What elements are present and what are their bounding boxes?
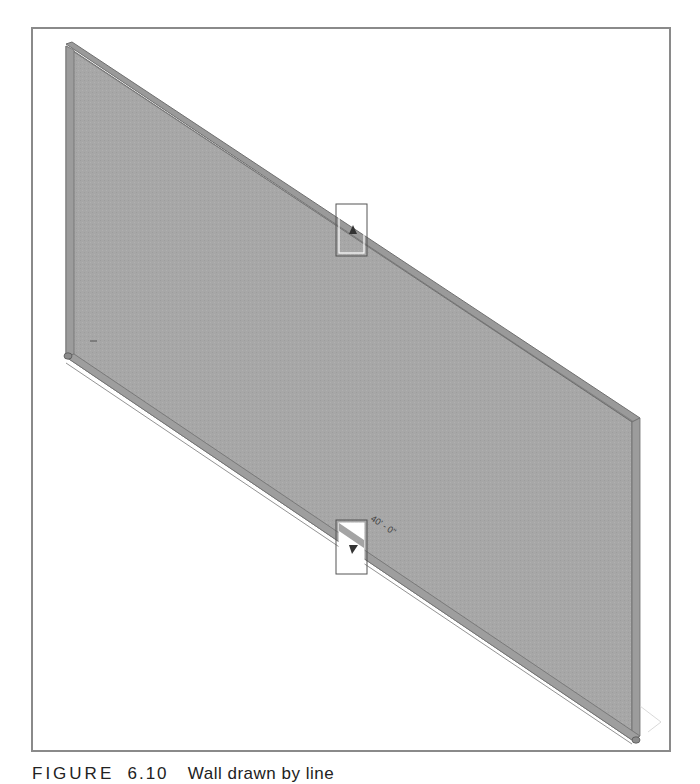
axis-indicator bbox=[640, 706, 661, 732]
wall-right-thickness bbox=[632, 418, 640, 740]
wall-face[interactable] bbox=[66, 46, 632, 740]
figure-number: 6.10 bbox=[127, 764, 168, 783]
figure-caption: FIGURE 6.10 Wall drawn by line bbox=[32, 764, 334, 784]
wall-end-left bbox=[64, 353, 72, 359]
wall-end-right bbox=[632, 737, 640, 743]
wall-left-thickness bbox=[66, 46, 74, 357]
flip-arrow-bottom[interactable] bbox=[336, 520, 367, 574]
figure-label: FIGURE bbox=[32, 764, 114, 783]
caption-text: Wall drawn by line bbox=[188, 764, 334, 783]
